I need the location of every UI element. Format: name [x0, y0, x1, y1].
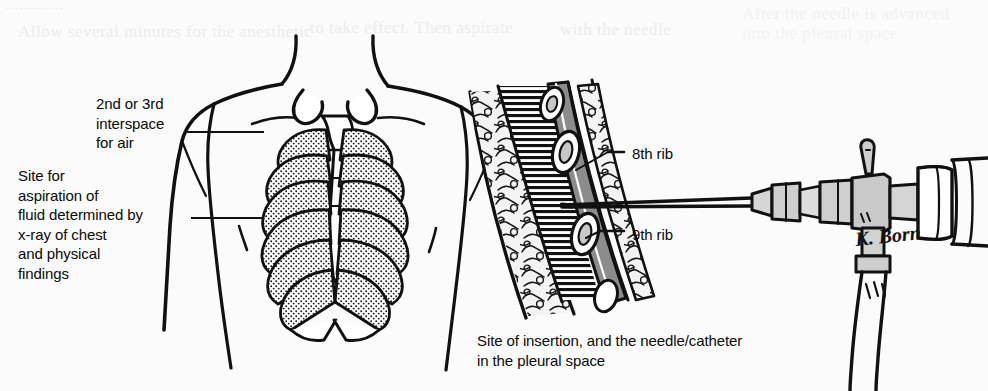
label-9th-rib: 9th rib [632, 225, 673, 245]
figure-canvas: ............. Allow several minutes for … [0, 0, 988, 391]
label-interspace: 2nd or 3rd interspace for air [96, 94, 164, 153]
torso-figure [164, 36, 503, 370]
caption-site-of-insertion: Site of insertion, and the needle/cathet… [477, 331, 742, 370]
leader-line-interspace [184, 131, 264, 133]
leader-line-aspiration [191, 217, 264, 219]
label-site-for-aspiration: Site for aspiration of fluid determined … [18, 166, 143, 283]
label-8th-rib: 8th rib [632, 144, 673, 164]
